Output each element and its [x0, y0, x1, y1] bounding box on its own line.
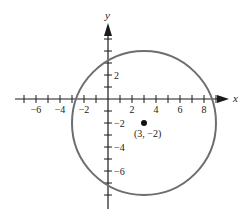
y-tick-labels: 2−2−4−6 — [114, 70, 125, 177]
y-axis-arrow-icon — [104, 23, 112, 36]
x-axis-label: x — [232, 92, 238, 104]
x-axis-arrow-icon — [217, 95, 229, 103]
y-tick-label: −6 — [114, 166, 125, 177]
center-point-label: (3, −2) — [134, 128, 161, 140]
coordinate-plane-diagram: x y (3, −2) −6−4−22468 2−2−4−6 — [0, 0, 247, 218]
center-point — [141, 120, 147, 126]
x-tick-label: 6 — [178, 104, 183, 115]
x-tick-label: −4 — [55, 104, 66, 115]
y-axis-label: y — [104, 9, 110, 21]
y-tick-label: 2 — [114, 70, 119, 81]
x-tick-label: 4 — [154, 104, 159, 115]
y-tick-label: −4 — [114, 142, 125, 153]
x-tick-label: 2 — [130, 104, 135, 115]
x-tick-labels: −6−4−22468 — [31, 104, 207, 115]
x-tick-label: −6 — [31, 104, 42, 115]
plot-canvas: x y (3, −2) −6−4−22468 2−2−4−6 — [0, 0, 247, 218]
y-tick-label: −2 — [114, 118, 125, 129]
x-tick-label: −2 — [79, 104, 90, 115]
x-tick-label: 8 — [202, 104, 207, 115]
